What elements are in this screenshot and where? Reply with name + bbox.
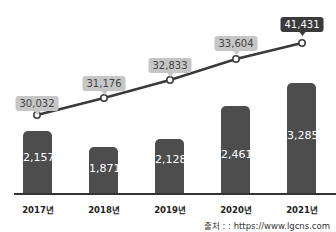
x-tick-label: 2018년 bbox=[79, 203, 129, 215]
source-caption: 출처 : : https://www.lgcns.com bbox=[204, 219, 330, 231]
combo-chart: 2,157 1,871 2,128 2,461 3,285 30,032 31,… bbox=[0, 0, 336, 232]
line-value-tag: 33,604 bbox=[215, 36, 258, 51]
line-point bbox=[299, 40, 305, 46]
line-value-tag: 30,032 bbox=[16, 96, 59, 111]
line-point bbox=[167, 77, 173, 83]
line-value-tag-highlight: 41,431 bbox=[281, 17, 324, 32]
line-value-tag: 31,176 bbox=[83, 76, 126, 91]
line-series bbox=[0, 0, 336, 232]
x-tick-label: 2017년 bbox=[13, 203, 63, 215]
x-tick-label: 2020년 bbox=[211, 203, 261, 215]
x-tick-label: 2019년 bbox=[145, 203, 195, 215]
line-point bbox=[233, 56, 239, 62]
line-value-tag: 32,833 bbox=[149, 58, 192, 73]
line-point bbox=[101, 95, 107, 101]
x-tick-label: 2021년 bbox=[277, 203, 327, 215]
